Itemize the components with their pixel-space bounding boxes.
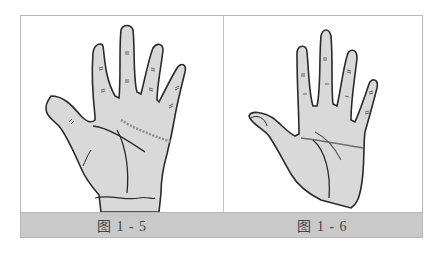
palm-outline <box>249 30 377 208</box>
hand-illustration-1-6 <box>223 16 422 216</box>
palm-outline <box>46 26 185 213</box>
figure-caption-1-5: 图 1 - 5 <box>21 212 223 237</box>
figure-panel-1-5: 图 1 - 5 <box>21 16 224 237</box>
figure-panel-1-6: 图 1 - 6 <box>223 16 422 237</box>
figure-frame: 图 1 - 5 图 1 - 6 <box>20 15 423 238</box>
hand-illustration-1-5 <box>21 16 223 216</box>
figure-caption-1-6: 图 1 - 6 <box>223 212 422 237</box>
